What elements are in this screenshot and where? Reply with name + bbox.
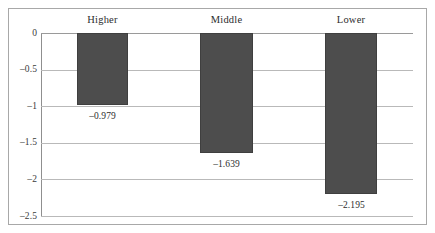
value-label-lower: –2.195	[311, 201, 392, 211]
value-label-middle: –1.639	[186, 160, 267, 170]
gridline-5	[41, 216, 413, 217]
bar-lower	[325, 33, 377, 194]
bar-middle	[200, 33, 253, 153]
category-label-middle: Middle	[200, 15, 253, 26]
y-tick-label-1: –0.5	[3, 65, 37, 75]
y-tick-label-5: –2.5	[3, 212, 37, 222]
category-label-lower: Lower	[325, 15, 377, 26]
chart-figure: 0 –0.5 –1 –1.5 –2 –2.5 Higher Middle Low…	[0, 0, 435, 233]
bar-higher	[77, 33, 128, 105]
y-axis-tick-labels: 0 –0.5 –1 –1.5 –2 –2.5	[0, 0, 37, 233]
y-tick-label-3: –1.5	[3, 138, 37, 148]
value-label-higher: –0.979	[62, 112, 143, 122]
y-tick-label-2: –1	[3, 102, 37, 112]
y-tick-label-4: –2	[3, 175, 37, 185]
category-label-higher: Higher	[77, 15, 128, 26]
y-tick-label-0: 0	[3, 29, 37, 39]
